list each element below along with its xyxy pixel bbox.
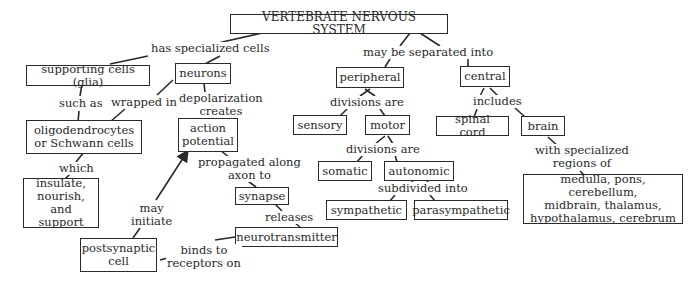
node-sympathetic: sympathetic — [326, 200, 407, 220]
concept-map: VERTEBRATE NERVOUS SYSTEM has specialize… — [0, 0, 700, 285]
node-root: VERTEBRATE NERVOUS SYSTEM — [230, 14, 448, 34]
node-glia: supporting cells (glia) — [26, 65, 150, 86]
link-propagated: propagated along axon to — [197, 156, 302, 182]
node-postsynaptic-cell: postsynaptic cell — [80, 238, 157, 272]
link-divisions-are-1: divisions are — [329, 96, 405, 109]
node-brain-regions: medulla, pons, cerebellum, midbrain, tha… — [523, 174, 683, 224]
link-wrapped-in: wrapped in — [110, 96, 178, 109]
node-parasympathetic: parasympathetic — [414, 200, 508, 220]
link-includes: includes — [472, 95, 523, 108]
node-sensory: sensory — [293, 115, 347, 135]
node-oligodendrocytes: oligodendrocytes or Schwann cells — [26, 120, 142, 154]
link-releases: releases — [264, 211, 314, 224]
link-subdivided-into: subdivided into — [377, 182, 469, 195]
link-may-initiate: may initiate — [130, 202, 173, 228]
node-neurons: neurons — [175, 63, 231, 84]
node-peripheral: peripheral — [336, 67, 404, 88]
link-divisions-are-2: divisions are — [345, 143, 421, 156]
node-insulate: insulate, nourish, and support — [23, 178, 99, 228]
node-neurotransmitter: neurotransmitter — [235, 227, 338, 247]
node-autonomic: autonomic — [384, 161, 454, 181]
node-synapse: synapse — [235, 187, 289, 205]
node-motor: motor — [365, 115, 410, 135]
link-such-as: such as — [58, 97, 104, 110]
link-separated: may be separated into — [362, 46, 494, 59]
node-action-potential: action potential — [178, 118, 238, 152]
node-somatic: somatic — [318, 161, 372, 181]
link-which: which — [58, 162, 95, 175]
node-brain: brain — [521, 116, 565, 136]
link-depolarization: depolarization creates — [178, 92, 264, 118]
link-has-specialized: has specialized cells — [150, 42, 271, 55]
node-central: central — [460, 66, 510, 87]
link-with-specialized-regions: with specialized regions of — [534, 144, 630, 170]
node-spinal-cord: spinal cord — [436, 116, 509, 136]
link-binds-to: binds to receptors on — [166, 244, 242, 270]
